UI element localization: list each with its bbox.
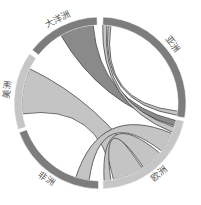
chord-ribbons [22, 25, 178, 181]
chord-diagram: 亚洲欧洲非洲美洲大洋洲 [0, 0, 201, 205]
group-label-3: 美洲 [0, 79, 14, 98]
chord-ribbon-2 [103, 25, 175, 132]
